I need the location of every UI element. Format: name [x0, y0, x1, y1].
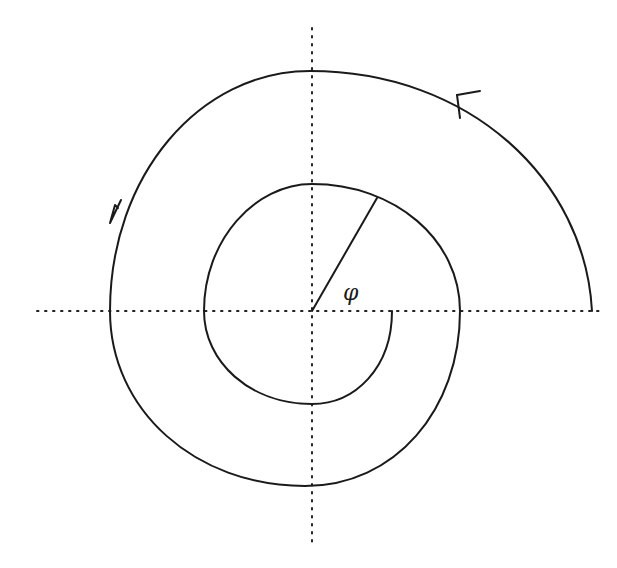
spiral-diagram: φ: [0, 0, 617, 568]
spiral-curve: [110, 71, 592, 486]
angle-label-phi: φ: [343, 280, 359, 305]
arrow-icon: [110, 200, 121, 223]
